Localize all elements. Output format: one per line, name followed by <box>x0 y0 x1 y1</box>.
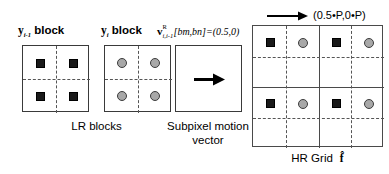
lr-prev-square-marker <box>69 59 78 68</box>
lr-prev-label-rest: block <box>31 24 64 36</box>
hr-circle-marker <box>298 99 308 109</box>
lr-prev-square-marker <box>36 92 45 101</box>
hr-circle-marker <box>364 38 374 48</box>
hr-circle-marker <box>364 99 374 109</box>
caption-hr-grid-symbol: f̂ <box>340 152 344 164</box>
lr-curr-block-label: yi block <box>101 24 142 38</box>
lr-prev-label-sub: i-1 <box>24 31 31 38</box>
lr-prev-square-marker <box>69 92 78 101</box>
lr-curr-label-rest: block <box>109 24 142 36</box>
lr-curr-horizontal-divider <box>105 79 172 80</box>
motion-formula-rest: [bm,bn]=(0.5,0) <box>174 26 240 37</box>
lr-curr-circle-marker <box>117 91 127 101</box>
lr-prev-block-label: yi-1 block <box>18 24 64 38</box>
hr-shift-annotation: (0.5•P,0•P) <box>313 9 366 21</box>
subpixel-motion-box <box>175 45 242 112</box>
lr-curr-circle-marker <box>150 91 160 101</box>
hr-grid-horizontal-separator <box>253 87 384 88</box>
lr-curr-vertical-divider <box>138 46 139 113</box>
motion-right-arrow-icon <box>194 73 226 86</box>
lr-curr-circle-marker <box>117 58 127 68</box>
motion-formula-sup: R <box>163 23 167 30</box>
hr-square-marker <box>332 38 341 47</box>
lr-prev-vertical-divider <box>56 46 57 113</box>
caption-hr-grid: HR Gridf̂ <box>252 152 383 164</box>
hr-square-marker <box>266 99 275 108</box>
lr-prev-horizontal-divider <box>23 79 90 80</box>
motion-vector-formula: vRi,i-1[bm,bn]=(0.5,0) <box>157 25 239 37</box>
hr-square-marker <box>332 99 341 108</box>
figure-canvas: yi-1 block yi block vRi,i-1[bm,bn]=(0.5,… <box>0 0 389 174</box>
caption-hr-grid-text: HR Grid <box>291 152 333 164</box>
caption-subpixel-line2: vector <box>148 134 268 146</box>
motion-formula-sub: i,i-1 <box>163 32 174 39</box>
hr-grid-dashed-v <box>351 26 352 148</box>
lr-prev-square-marker <box>36 59 45 68</box>
caption-subpixel-line1: Subpixel motion <box>148 120 268 132</box>
lr-prev-block <box>22 45 89 112</box>
shift-arrow-icon <box>267 10 309 22</box>
lr-curr-circle-marker <box>150 58 160 68</box>
hr-grid-dashed-h <box>253 118 384 119</box>
hr-square-marker <box>266 38 275 47</box>
hr-circle-marker <box>298 38 308 48</box>
hr-grid-dashed-h <box>253 57 384 58</box>
hr-grid <box>252 25 383 147</box>
lr-curr-block <box>104 45 171 112</box>
hr-grid-dashed-v <box>286 26 287 148</box>
